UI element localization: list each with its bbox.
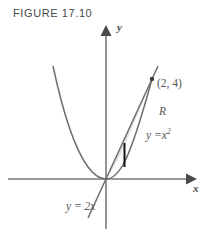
point-label: (2, 4) xyxy=(157,77,182,89)
y-axis-arrowhead xyxy=(101,25,112,36)
parabola-label-lhs: y = xyxy=(146,129,162,141)
line-equation-label: y = 2x xyxy=(66,200,95,212)
parabola-label-exponent: 2 xyxy=(167,127,171,136)
intersection-point-marker xyxy=(150,77,154,81)
x-axis-label: x xyxy=(193,182,199,194)
parabola-curve xyxy=(53,66,152,179)
y-axis-label: y xyxy=(117,21,122,33)
region-label: R xyxy=(159,105,166,117)
line-curve xyxy=(88,66,158,218)
figure-container: FIGURE 17.10 (2, 4) R y =x2 y = 2x x y xyxy=(0,0,212,241)
parabola-equation-label: y =x2 xyxy=(146,127,171,141)
plot-canvas xyxy=(0,0,212,241)
